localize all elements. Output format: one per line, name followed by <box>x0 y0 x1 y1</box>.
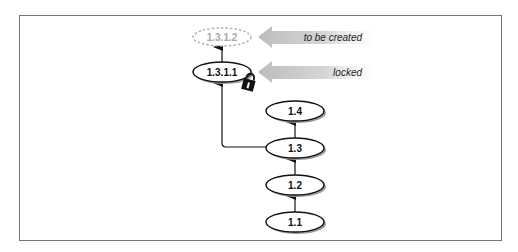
callout-label-locked: locked <box>333 67 362 78</box>
callout-to-be-created: to be created <box>258 26 372 48</box>
node-label-1.1: 1.1 <box>288 217 302 228</box>
node-label-1.2: 1.2 <box>288 180 302 191</box>
edge-1.3-to-1.3.1.1 <box>222 83 266 147</box>
node-1.2: 1.2 <box>266 175 326 197</box>
diagram-canvas: to be created locked 1.3.1.2 1.3.1.1 <box>0 0 518 252</box>
node-1.3.1.2: 1.3.1.2 <box>193 28 251 46</box>
node-label-1.3: 1.3 <box>288 143 302 154</box>
node-1.4: 1.4 <box>266 101 326 123</box>
callout-label-to-be-created: to be created <box>304 32 363 43</box>
diagram-frame <box>20 16 502 241</box>
callout-locked: locked <box>258 61 372 83</box>
node-label-1.3.1.1: 1.3.1.1 <box>207 67 238 78</box>
node-label-1.4: 1.4 <box>288 106 302 117</box>
node-1.3: 1.3 <box>266 138 326 160</box>
node-label-1.3.1.2: 1.3.1.2 <box>207 32 238 43</box>
node-1.1: 1.1 <box>266 212 326 234</box>
